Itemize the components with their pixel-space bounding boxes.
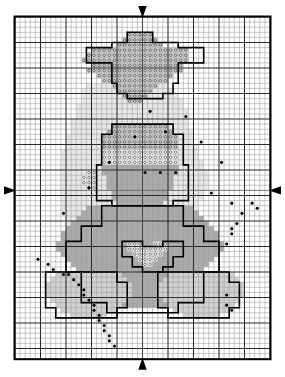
pattern-cell-run	[158, 292, 245, 297]
french-knot-dot	[240, 212, 243, 215]
french-knot-dot	[108, 334, 111, 337]
french-knot-dot	[108, 161, 111, 164]
pattern-cell-run	[61, 231, 219, 236]
french-knot-dot	[149, 110, 152, 113]
french-knot-dot	[230, 309, 233, 312]
french-knot-dot	[256, 207, 259, 210]
french-knot-dot	[230, 232, 233, 235]
pattern-cell-run	[102, 165, 179, 170]
french-knot-dot	[225, 242, 228, 245]
french-knot-dot	[103, 329, 106, 332]
french-knot-dot	[87, 186, 90, 189]
french-knot-dot	[108, 339, 111, 342]
french-knot-dot	[93, 304, 96, 307]
pattern-cell-run	[81, 211, 198, 216]
pattern-cell-run	[102, 170, 179, 175]
french-knot-dot	[67, 273, 70, 276]
french-knot-dot	[225, 293, 228, 296]
paw-left-light	[46, 272, 133, 318]
pattern-cell-run	[173, 308, 229, 313]
french-knot-dot	[230, 202, 233, 205]
french-knot-dot	[98, 314, 101, 317]
french-knot-dot	[144, 171, 147, 174]
pattern-cell-run	[112, 190, 168, 195]
pattern-cell-run	[46, 292, 133, 297]
pattern-cell-run	[46, 287, 133, 292]
french-knot-dot	[235, 222, 238, 225]
french-knot-dot	[93, 309, 96, 312]
french-knot-dot	[220, 161, 223, 164]
french-knot-dot	[77, 283, 80, 286]
french-knot-dot	[133, 135, 136, 138]
pattern-cell-run	[163, 277, 240, 282]
pattern-cell-run	[112, 83, 158, 88]
french-knot-dot	[72, 278, 75, 281]
pattern-cell-run	[76, 216, 204, 221]
french-knot-dot	[47, 263, 50, 266]
pattern-cell-run	[81, 175, 96, 180]
pattern-chart-page	[0, 0, 285, 377]
pattern-cell-run	[86, 68, 183, 73]
pattern-cell-run	[81, 180, 96, 185]
french-knot-dot	[225, 304, 228, 307]
french-knot-dot	[113, 344, 116, 347]
chart-canvas	[0, 0, 285, 377]
french-knot-dot	[200, 140, 203, 143]
french-knot-dot	[52, 268, 55, 271]
pattern-cell-run	[112, 196, 168, 201]
french-knot-dot	[98, 319, 101, 322]
french-knot-dot	[62, 273, 65, 276]
pattern-cell-run	[51, 277, 128, 282]
pattern-cell-run	[158, 287, 245, 292]
french-knot-dot	[184, 115, 187, 118]
french-knot-dot	[164, 130, 167, 133]
pattern-cell-run	[76, 104, 183, 109]
french-knot-dot	[82, 288, 85, 291]
french-knot-dot	[62, 212, 65, 215]
cross-stitch-chart	[0, 0, 285, 377]
french-knot-dot	[103, 324, 106, 327]
french-knot-dot	[210, 191, 213, 194]
french-knot-dot	[82, 293, 85, 296]
french-knot-dot	[87, 299, 90, 302]
french-knot-dot	[36, 258, 39, 261]
french-knot-dot	[159, 171, 162, 174]
french-knot-dot	[174, 171, 177, 174]
french-knot-dot	[251, 202, 254, 205]
french-knot-dot	[230, 227, 233, 230]
